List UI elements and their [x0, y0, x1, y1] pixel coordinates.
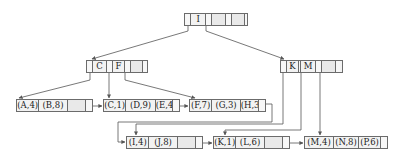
key-cell: K	[287, 61, 299, 72]
key-cell	[232, 14, 246, 25]
b-plus-tree-diagram: I C F K M (A,4) (B,8) (C,1) (D,9) (E,4)	[0, 0, 403, 161]
leaf-node: (M,4) (N,8) (P,6)	[304, 136, 388, 149]
key-cell	[131, 61, 144, 72]
leaf-entry: (G,3)	[212, 100, 240, 111]
leaf-entry: (H,3)	[241, 100, 260, 111]
key-cell	[322, 61, 336, 72]
leaf-entry: (I,4)	[127, 137, 149, 148]
root-node: I	[184, 13, 248, 26]
pointer-cell	[336, 61, 340, 72]
leaf-node: (F,7) (G,3) (H,3)	[189, 99, 266, 112]
leaf-entry: (K,1)	[214, 137, 236, 148]
key-cell: I	[191, 14, 206, 25]
leaf-entry	[178, 137, 197, 148]
leaf-entry: (A,4)	[17, 100, 39, 111]
leaf-entry: (M,4)	[305, 137, 334, 148]
key-cell: C	[93, 61, 108, 72]
internal-node-right: K M	[280, 60, 343, 73]
leaf-node: (A,4) (B,8)	[16, 99, 93, 112]
next-pointer-cell	[283, 137, 289, 148]
leaf-entry: (J,8)	[149, 137, 177, 148]
pointer-cell	[245, 14, 247, 25]
key-cell	[212, 14, 226, 25]
leaf-entry: (L,6)	[236, 137, 264, 148]
leaf-node: (C,1) (D,9) (E,4)	[103, 99, 180, 112]
leaf-node: (K,1) (L,6)	[213, 136, 290, 149]
leaf-entry: (F,7)	[190, 100, 212, 111]
leaf-entry: (D,9)	[126, 100, 155, 111]
leaf-entry: (C,1)	[104, 100, 126, 111]
leaf-entry	[265, 137, 284, 148]
next-pointer-cell	[381, 137, 387, 148]
leaf-entry: (B,8)	[39, 100, 67, 111]
leaf-entry	[68, 100, 87, 111]
leaf-node: (I,4) (J,8)	[126, 136, 203, 149]
internal-node-left: C F	[86, 60, 148, 73]
next-pointer-cell	[259, 100, 265, 111]
next-pointer-cell	[86, 100, 92, 111]
key-cell: M	[301, 61, 316, 72]
pointer-cell	[143, 61, 147, 72]
key-cell: F	[113, 61, 125, 72]
next-pointer-cell	[173, 100, 179, 111]
leaf-entry: (E,4)	[156, 100, 174, 111]
leaf-entry: (N,8)	[334, 137, 359, 148]
leaf-entry: (P,6)	[359, 137, 381, 148]
next-pointer-cell	[196, 137, 202, 148]
